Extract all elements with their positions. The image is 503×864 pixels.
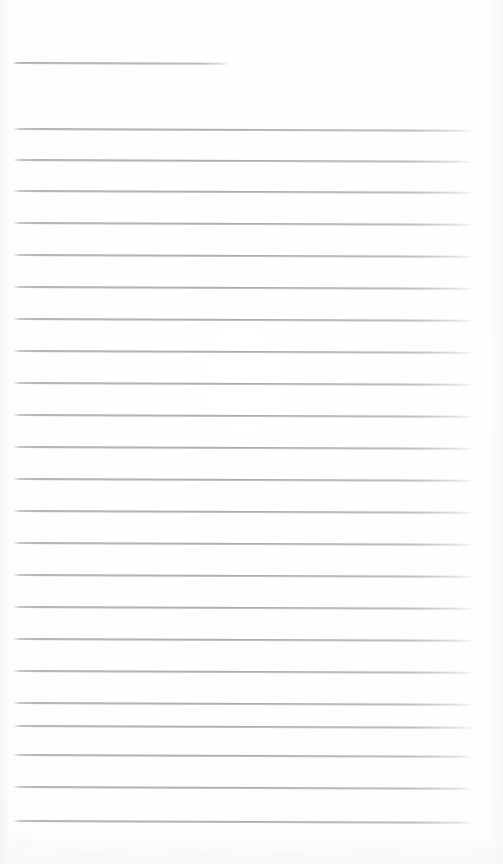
page-text-layer [0,0,503,864]
scanned-page [0,0,503,864]
